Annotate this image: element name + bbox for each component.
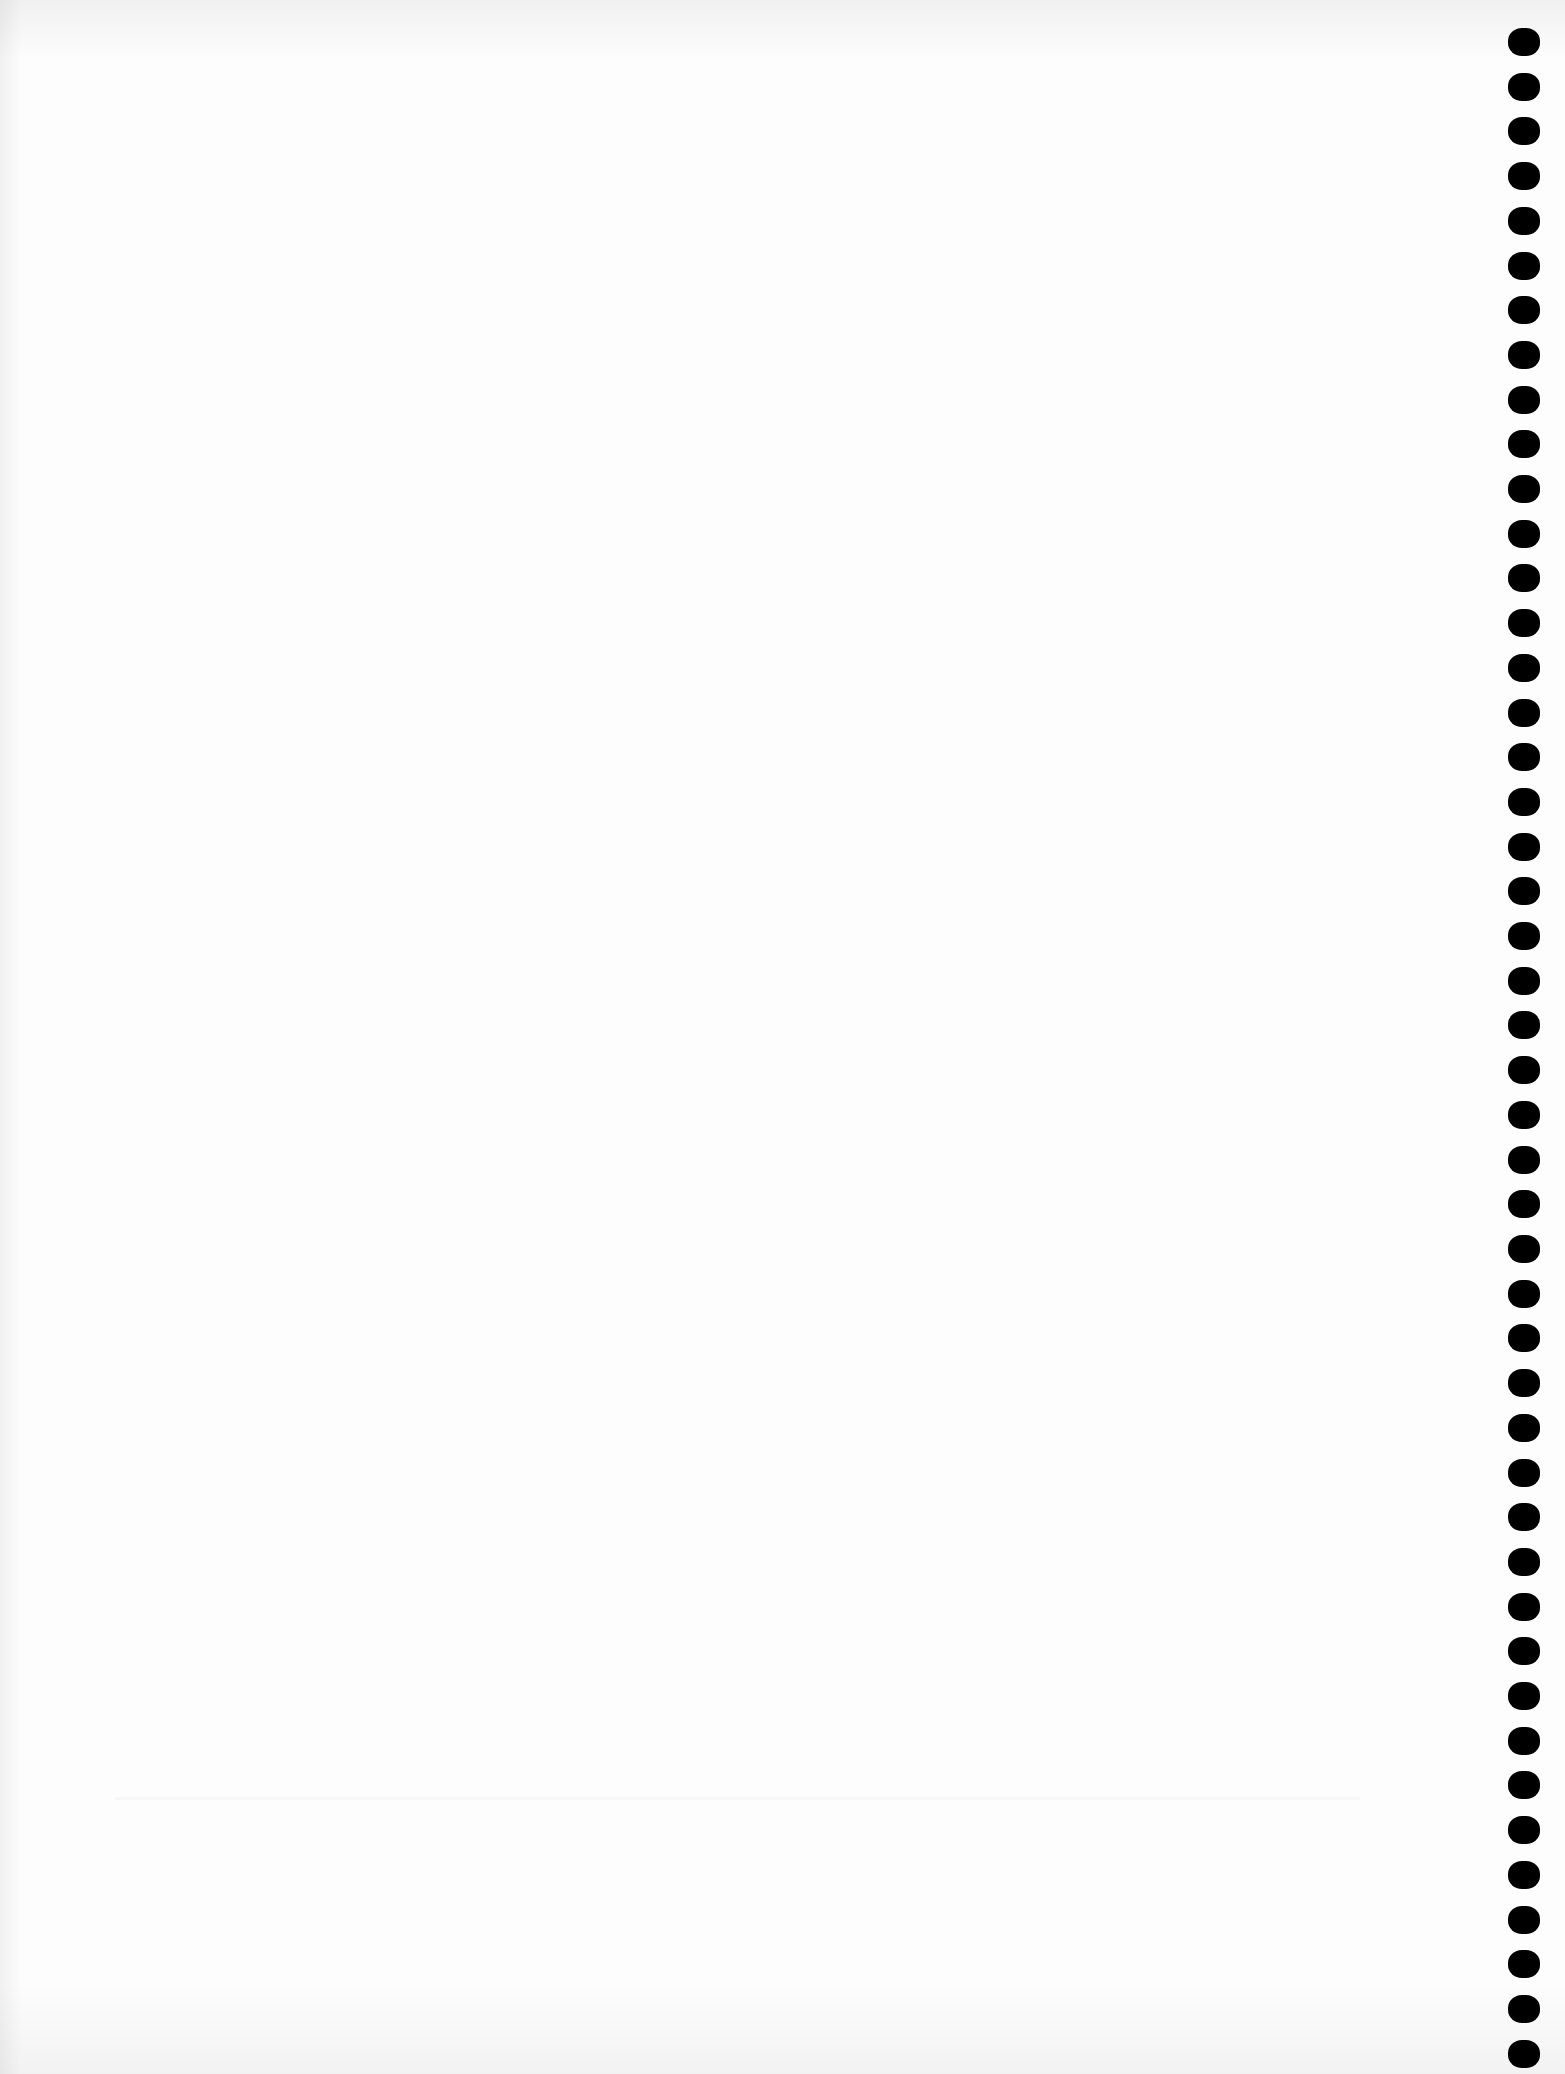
binding-hole-icon: [1508, 1950, 1540, 1978]
binding-hole-icon: [1508, 1324, 1540, 1352]
binding-hole-icon: [1508, 1414, 1540, 1442]
binding-hole-icon: [1508, 609, 1540, 637]
binding-hole-icon: [1508, 1682, 1540, 1710]
binding-hole-icon: [1508, 252, 1540, 280]
binding-hole-icon: [1508, 1101, 1540, 1129]
binding-hole-icon: [1508, 475, 1540, 503]
scan-edge-shadow: [0, 0, 22, 2074]
binding-hole-icon: [1508, 520, 1540, 548]
binding-hole-icon: [1508, 1593, 1540, 1621]
faint-bleed-through: [115, 1797, 1360, 1800]
binding-hole-icon: [1508, 1548, 1540, 1576]
binding-hole-icon: [1508, 564, 1540, 592]
binding-hole-icon: [1508, 1861, 1540, 1889]
binding-hole-icon: [1508, 877, 1540, 905]
binding-hole-icon: [1508, 1637, 1540, 1665]
binding-hole-icon: [1508, 1011, 1540, 1039]
blank-page: [0, 0, 1565, 2074]
binding-hole-icon: [1508, 1503, 1540, 1531]
binding-hole-icon: [1508, 1727, 1540, 1755]
binding-hole-icon: [1508, 1459, 1540, 1487]
binding-hole-icon: [1508, 743, 1540, 771]
binding-hole-icon: [1508, 654, 1540, 682]
binding-hole-icon: [1508, 1995, 1540, 2023]
binding-holes-strip: [1508, 28, 1542, 2068]
binding-hole-icon: [1508, 922, 1540, 950]
binding-hole-icon: [1508, 967, 1540, 995]
binding-hole-icon: [1508, 2040, 1540, 2068]
binding-hole-icon: [1508, 699, 1540, 727]
binding-hole-icon: [1508, 1056, 1540, 1084]
binding-hole-icon: [1508, 1235, 1540, 1263]
binding-hole-icon: [1508, 1369, 1540, 1397]
binding-hole-icon: [1508, 296, 1540, 324]
binding-hole-icon: [1508, 386, 1540, 414]
binding-hole-icon: [1508, 1280, 1540, 1308]
binding-hole-icon: [1508, 162, 1540, 190]
binding-hole-icon: [1508, 788, 1540, 816]
binding-hole-icon: [1508, 430, 1540, 458]
binding-hole-icon: [1508, 1771, 1540, 1799]
binding-hole-icon: [1508, 1906, 1540, 1934]
binding-hole-icon: [1508, 1190, 1540, 1218]
binding-hole-icon: [1508, 833, 1540, 861]
binding-hole-icon: [1508, 1816, 1540, 1844]
binding-hole-icon: [1508, 341, 1540, 369]
binding-hole-icon: [1508, 1146, 1540, 1174]
binding-hole-icon: [1508, 73, 1540, 101]
binding-hole-icon: [1508, 28, 1540, 56]
binding-hole-icon: [1508, 207, 1540, 235]
binding-hole-icon: [1508, 117, 1540, 145]
